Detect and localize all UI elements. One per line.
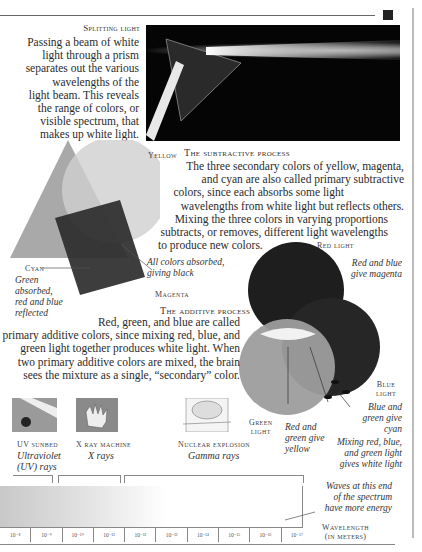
x-ray-machine-icon bbox=[76, 398, 118, 432]
red-light-label: Red light bbox=[317, 241, 354, 250]
example-title-uv: UV sunbed bbox=[17, 440, 58, 449]
tick: 10⁻¹² bbox=[124, 528, 155, 542]
example-title-xray: X ray machine bbox=[76, 440, 131, 449]
tick: 10⁻¹⁷ bbox=[281, 528, 312, 542]
subtractive-heading: The subtractive process bbox=[184, 147, 290, 158]
green-light-label: Green light bbox=[249, 418, 272, 436]
top-rule bbox=[0, 15, 375, 16]
green-absorbed-caption: Green absorbed, red and blue reflected bbox=[15, 275, 63, 319]
uv-sunbed-icon bbox=[12, 398, 57, 432]
mixing-all-caption: Mixing red, blue, and green light gives … bbox=[332, 437, 402, 470]
blue-green-caption: Blue and green give cyan bbox=[354, 402, 402, 435]
additive-text: Red, green, and blue are called primary … bbox=[8, 316, 240, 382]
subtractive-text: The three secondary colors of yellow, ma… bbox=[150, 160, 404, 252]
red-blue-caption: Red and blue give magenta bbox=[330, 258, 402, 280]
tick: 10⁻¹⁶ bbox=[249, 528, 280, 542]
example-ray-uv: Ultraviolet (UV) rays bbox=[17, 450, 61, 472]
wavelength-axis-label: Wavelength (in meters) bbox=[322, 523, 369, 541]
xray-bracket bbox=[58, 475, 121, 483]
spectrum-bar bbox=[0, 486, 303, 528]
tick: 10⁻¹¹ bbox=[93, 528, 124, 542]
blue-light-label: Blue light bbox=[376, 380, 396, 398]
nuclear-explosion-icon bbox=[183, 398, 231, 432]
wavelength-axis: 10⁻⁸ 10⁻⁹ 10⁻¹⁰ 10⁻¹¹ 10⁻¹² 10⁻¹³ 10⁻¹⁴ … bbox=[0, 528, 312, 542]
example-title-nuclear: Nuclear explosion bbox=[178, 440, 250, 449]
red-green-caption: Red and green give yellow bbox=[285, 422, 324, 455]
prism-icon bbox=[146, 25, 400, 141]
tick: 10⁻¹⁴ bbox=[187, 528, 218, 542]
magenta-label: Magenta bbox=[155, 290, 189, 299]
tick: 10⁻¹⁵ bbox=[218, 528, 249, 542]
energy-note: Waves at this end of the spectrum have m… bbox=[310, 481, 392, 514]
additive-heading: The additive process bbox=[160, 305, 250, 316]
splitting-heading: Splitting light bbox=[60, 23, 140, 33]
yellow-label: Yellow bbox=[148, 151, 177, 160]
tick: 10⁻⁹ bbox=[30, 528, 61, 542]
cyan-label: Cyan bbox=[25, 264, 44, 273]
splitting-text: Passing a beam of white light through a … bbox=[0, 36, 139, 142]
page-edge bbox=[412, 8, 414, 538]
bottom-rule bbox=[0, 544, 395, 545]
prism-photo bbox=[146, 25, 400, 141]
tick: 10⁻⁸ bbox=[0, 528, 30, 542]
example-ray-xray: X rays bbox=[88, 450, 114, 461]
example-ray-nuclear: Gamma rays bbox=[188, 450, 239, 461]
all-absorbed-caption: All colors absorbed, giving black bbox=[147, 257, 224, 279]
gamma-bracket bbox=[124, 475, 304, 483]
uv-bracket bbox=[13, 475, 53, 483]
tick: 10⁻¹³ bbox=[155, 528, 186, 542]
page-marker bbox=[383, 10, 393, 20]
tick: 10⁻¹⁰ bbox=[62, 528, 93, 542]
